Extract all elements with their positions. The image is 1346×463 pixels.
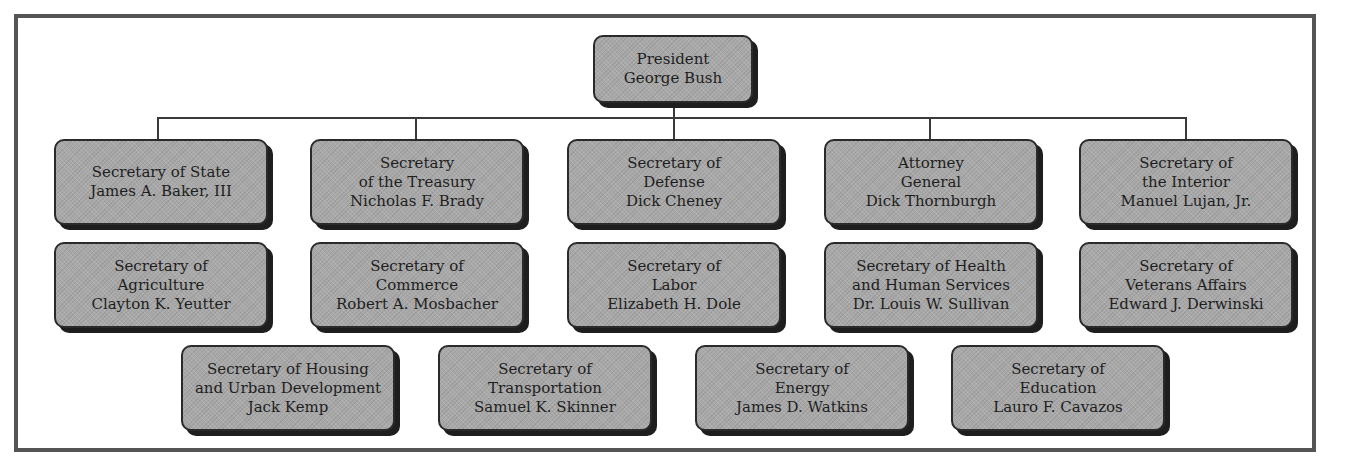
node-line: Secretary of	[1011, 360, 1105, 379]
node-line: of the Treasury	[359, 173, 476, 192]
node-secretary-of-interior: Secretary of the Interior Manuel Lujan, …	[1079, 139, 1293, 225]
node-secretary-of-housing: Secretary of Housing and Urban Developme…	[181, 345, 395, 431]
node-line: Defense	[643, 173, 705, 192]
connector-horizontal	[157, 117, 1187, 119]
node-line: Jack Kemp	[248, 398, 329, 417]
node-secretary-of-labor: Secretary of Labor Elizabeth H. Dole	[567, 242, 781, 328]
node-line: Elizabeth H. Dole	[607, 295, 741, 314]
node-line: Attorney	[898, 154, 964, 173]
node-line: Nicholas F. Brady	[350, 192, 484, 211]
node-line: the Interior	[1142, 173, 1230, 192]
node-line: James A. Baker, III	[90, 182, 232, 201]
node-line: Secretary of	[114, 257, 208, 276]
connector-defense	[673, 117, 675, 139]
node-secretary-of-energy: Secretary of Energy James D. Watkins	[695, 345, 909, 431]
node-line: Dick Thornburgh	[866, 192, 996, 211]
node-secretary-of-agriculture: Secretary of Agriculture Clayton K. Yeut…	[54, 242, 268, 328]
node-secretary-of-education: Secretary of Education Lauro F. Cavazos	[951, 345, 1165, 431]
node-line: Dr. Louis W. Sullivan	[853, 295, 1010, 314]
node-line: President	[637, 50, 710, 69]
node-line: George Bush	[624, 69, 722, 88]
node-line: Secretary of	[627, 154, 721, 173]
node-line: Secretary	[380, 154, 454, 173]
node-line: Education	[1019, 379, 1096, 398]
node-secretary-of-defense: Secretary of Defense Dick Cheney	[567, 139, 781, 225]
node-line: Samuel K. Skinner	[474, 398, 616, 417]
node-line: Secretary of Health	[856, 257, 1006, 276]
node-attorney-general: Attorney General Dick Thornburgh	[824, 139, 1038, 225]
node-line: Secretary of	[627, 257, 721, 276]
node-line: and Urban Development	[195, 379, 381, 398]
node-secretary-of-treasury: Secretary of the Treasury Nicholas F. Br…	[310, 139, 524, 225]
node-secretary-of-state: Secretary of State James A. Baker, III	[54, 139, 268, 225]
node-line: Secretary of	[1139, 154, 1233, 173]
node-line: Robert A. Mosbacher	[336, 295, 498, 314]
node-line: Commerce	[376, 276, 458, 295]
node-line: James D. Watkins	[736, 398, 868, 417]
node-line: Secretary of	[1139, 257, 1233, 276]
node-secretary-of-transportation: Secretary of Transportation Samuel K. Sk…	[438, 345, 652, 431]
node-line: Secretary of	[755, 360, 849, 379]
node-line: Secretary of State	[92, 163, 231, 182]
node-line: General	[901, 173, 961, 192]
node-line: Veterans Affairs	[1125, 276, 1246, 295]
node-line: Manuel Lujan, Jr.	[1121, 192, 1252, 211]
node-line: Dick Cheney	[626, 192, 722, 211]
node-secretary-of-health: Secretary of Health and Human Services D…	[824, 242, 1038, 328]
node-secretary-of-commerce: Secretary of Commerce Robert A. Mosbache…	[310, 242, 524, 328]
node-line: Energy	[775, 379, 830, 398]
node-line: Secretary of	[498, 360, 592, 379]
node-line: Transportation	[488, 379, 602, 398]
node-line: Agriculture	[118, 276, 205, 295]
node-line: Clayton K. Yeutter	[91, 295, 230, 314]
node-line: Secretary of	[370, 257, 464, 276]
connector-state	[157, 117, 159, 139]
node-line: Labor	[652, 276, 697, 295]
connector-interior	[1185, 117, 1187, 139]
connector-treasury	[415, 117, 417, 139]
node-president: President George Bush	[593, 35, 753, 103]
node-line: Lauro F. Cavazos	[993, 398, 1123, 417]
connector-attorney-general	[929, 117, 931, 139]
node-line: Edward J. Derwinski	[1108, 295, 1263, 314]
node-secretary-of-veterans-affairs: Secretary of Veterans Affairs Edward J. …	[1079, 242, 1293, 328]
node-line: and Human Services	[852, 276, 1010, 295]
node-line: Secretary of Housing	[207, 360, 369, 379]
